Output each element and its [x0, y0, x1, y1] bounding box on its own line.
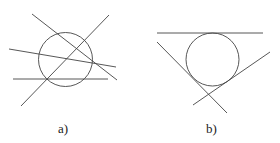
panel-label: b)	[206, 121, 217, 136]
line-2	[157, 42, 227, 113]
line-3	[9, 49, 116, 67]
line-1	[32, 14, 117, 80]
panel-b: b)	[157, 33, 270, 136]
panel-a: a)	[9, 14, 117, 136]
diagram-canvas: a) b)	[0, 0, 280, 143]
circle	[186, 33, 239, 86]
panel-label: a)	[58, 121, 68, 136]
line-2	[21, 15, 109, 106]
line-3	[193, 52, 270, 105]
